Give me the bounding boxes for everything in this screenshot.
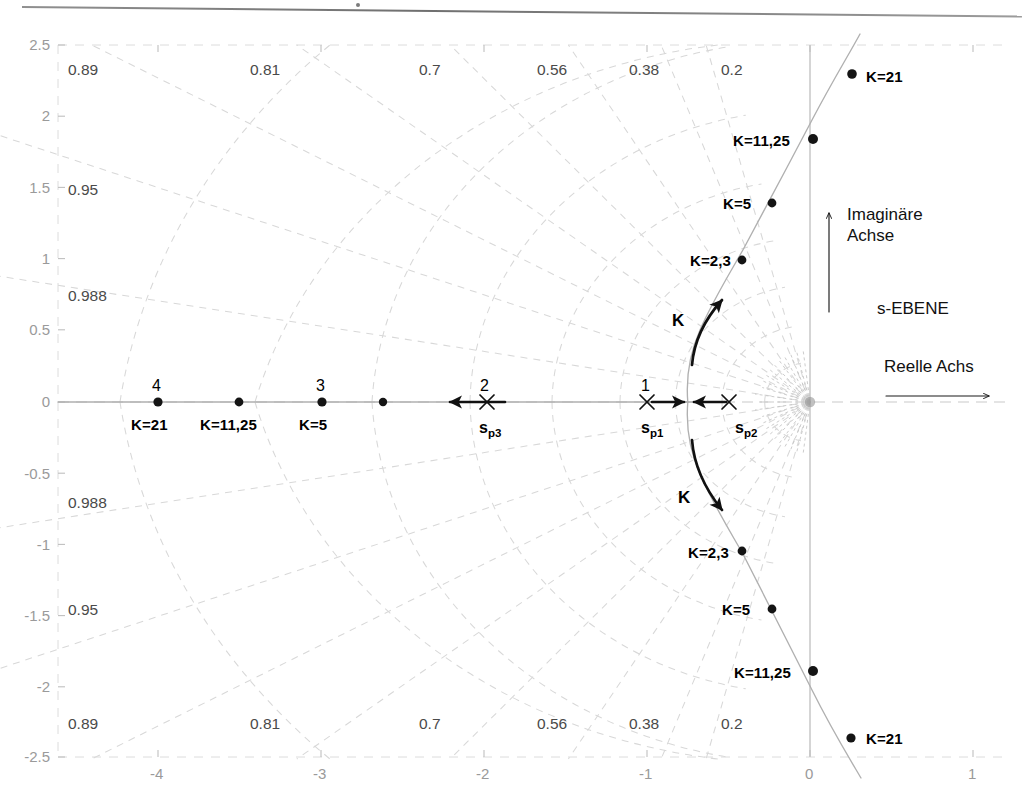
gain-label-real-k5: K=5 [299,417,327,432]
gain-label-lower-k5: K=5 [722,602,750,617]
locus-upper-branch [687,34,860,402]
plot-canvas [0,0,1023,805]
y-tick-1.5: 1.5 [10,180,50,195]
dot-real-k21 [153,397,162,406]
direction-arrows [450,300,726,510]
root-locus-figure: 2.5 2 1.5 1 0.5 0 -0.5 -1 -1.5 -2 -2.5 -… [0,0,1023,805]
x-tick-1: 1 [968,766,976,781]
locus-lower-branch [687,402,861,778]
damping-label-left-0.95-lower: 0.95 [68,602,98,618]
s-plane-annotation: s-EBENE [877,299,949,320]
y-tick-0: 0 [10,394,50,409]
dot-upper-k21 [847,69,857,79]
dot-real-k1125 [235,398,244,407]
y-tick--0.5: -0.5 [10,466,50,481]
damping-label-top-0.89: 0.89 [68,62,98,78]
y-tick-2: 2 [10,108,50,123]
real-axis-annotation: Reelle Achs [884,357,974,378]
damping-label-bottom-0.2: 0.2 [721,716,743,732]
x-tick--2: -2 [476,766,489,781]
x-tick--3: -3 [313,766,326,781]
arrow-k-down [692,440,722,510]
x-tick--1: -1 [639,766,652,781]
dot-lower-k5 [768,605,777,614]
branch-number-3: 3 [316,378,325,394]
gain-label-real-k1125: K=11,25 [200,417,257,432]
gain-label-lower-k23: K=2,3 [688,545,729,560]
dot-lower-k21 [846,733,855,742]
imaginary-axis-line1: Imaginäre [847,205,923,224]
x-tick-0: 0 [805,766,813,781]
y-tick-1: 1 [10,251,50,266]
branch-number-1: 1 [641,378,650,394]
damping-label-top-0.7: 0.7 [419,62,441,78]
gain-label-real-k21: K=21 [131,417,168,432]
gain-label-lower-k21: K=21 [866,731,903,746]
damping-label-bottom-0.89: 0.89 [68,716,98,732]
gain-label-upper-k5: K=5 [723,196,751,211]
y-tick-0.5: 0.5 [10,322,50,337]
damping-label-top-0.38: 0.38 [629,62,659,78]
branch-number-4: 4 [152,378,161,394]
damping-label-bottom-0.81: 0.81 [250,716,280,732]
gain-arrow-label-up: K [672,312,684,329]
gain-marker-dots [153,69,856,742]
damping-label-bottom-0.7: 0.7 [419,716,441,732]
pole-label-sp3: sp3 [479,420,502,440]
y-tick--2: -2 [10,679,50,694]
gain-label-lower-k1125: K=11,25 [734,665,791,680]
damping-label-left-0.988-lower: 0.988 [68,495,107,511]
y-tick--2.5: -2.5 [10,749,50,764]
dot-real-k5 [317,397,326,406]
pole-label-sp2: sp2 [735,420,758,440]
dot-upper-k5 [768,199,777,208]
damping-label-top-0.2: 0.2 [721,62,743,78]
branch-number-2: 2 [480,378,489,394]
imaginary-axis-annotation: Imaginäre Achse [847,205,923,246]
dot-lower-k1125 [808,666,818,676]
axis-lines [58,45,1010,757]
gain-label-upper-k21: K=21 [866,69,903,84]
dot-upper-k1125 [808,134,818,144]
damping-label-top-0.81: 0.81 [250,62,280,78]
y-tick--1: -1 [10,537,50,552]
gain-label-upper-k23: K=2,3 [690,253,731,268]
damping-label-bottom-0.38: 0.38 [629,716,659,732]
damping-label-left-0.988-upper: 0.988 [68,288,107,304]
damping-label-bottom-0.56: 0.56 [537,716,567,732]
tick-marks [58,45,973,757]
damping-label-top-0.56: 0.56 [537,62,567,78]
gain-label-upper-k1125: K=11,25 [733,133,790,148]
gain-arrow-label-down: K [678,489,690,506]
pole-label-sp1: sp1 [641,420,664,440]
x-tick--4: -4 [150,766,163,781]
dot-lower-k23 [738,547,747,556]
y-tick--1.5: -1.5 [10,608,50,623]
dot-real-unlabeled [379,398,387,406]
damping-label-left-0.95-upper: 0.95 [68,182,98,198]
imaginary-axis-line2: Achse [847,226,894,245]
origin-blob [805,397,815,407]
dot-upper-k23 [738,256,747,265]
y-tick-2.5: 2.5 [10,37,50,52]
